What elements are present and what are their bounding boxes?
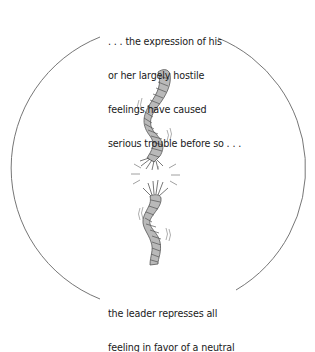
- top-caption-line: or her largely hostile: [108, 70, 241, 81]
- top-caption-line: . . . the expression of his: [108, 36, 241, 47]
- top-caption: . . . the expression of his or her large…: [108, 13, 241, 173]
- rope-lower-piece: [139, 180, 171, 265]
- bottom-caption: the leader represses all feeling in favo…: [108, 285, 235, 352]
- bottom-caption-line: feeling in favor of a neutral: [108, 342, 235, 352]
- bottom-caption-line: the leader represses all: [108, 308, 235, 319]
- illustration-figure: . . . the expression of his or her large…: [0, 0, 315, 352]
- top-caption-line: serious trouble before so . . .: [108, 138, 241, 149]
- top-caption-line: feelings have caused: [108, 104, 241, 115]
